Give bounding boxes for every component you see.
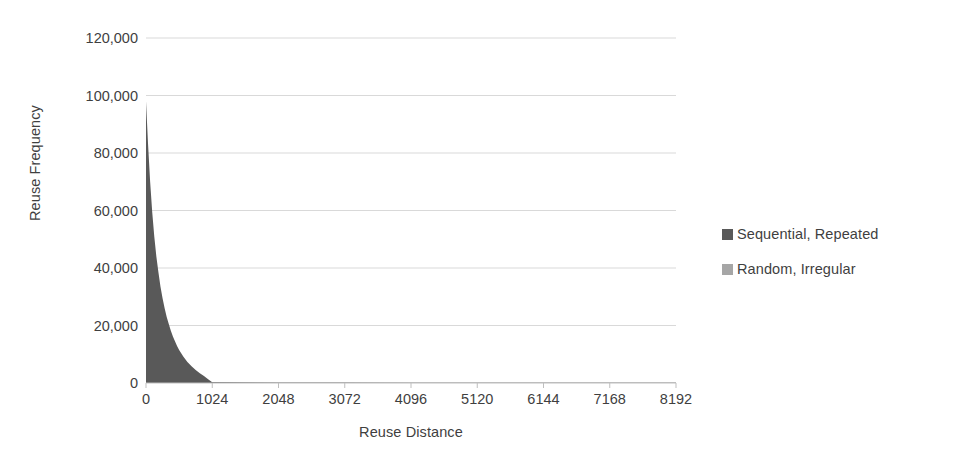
- y-tick-label: 120,000: [0, 31, 138, 46]
- x-tick-label: 4096: [395, 392, 427, 407]
- gridlines: [146, 38, 676, 326]
- x-tick-label: 7168: [594, 392, 626, 407]
- x-axis-tick-labels: 010242048307240965120614471688192: [0, 392, 964, 416]
- legend-swatch-icon: [722, 264, 733, 275]
- x-tick-label: 1024: [196, 392, 228, 407]
- x-tick-label: 5120: [461, 392, 493, 407]
- y-tick-label: 20,000: [0, 318, 138, 333]
- x-tick-label: 8192: [660, 392, 692, 407]
- x-tick-label: 6144: [527, 392, 559, 407]
- y-tick-label: 80,000: [0, 146, 138, 161]
- legend-item[interactable]: Sequential, Repeated: [722, 221, 952, 247]
- reuse-distance-area-chart: Reuse Frequency 120,000100,00080,00060,0…: [0, 0, 964, 469]
- y-tick-label: 60,000: [0, 203, 138, 218]
- x-tick-label: 2048: [262, 392, 294, 407]
- series-areas: [146, 101, 676, 383]
- series-area: [146, 101, 676, 383]
- plot-area: [146, 38, 676, 383]
- x-axis-title: Reuse Distance: [146, 424, 676, 440]
- legend-label: Random, Irregular: [737, 261, 856, 277]
- y-tick-label: 100,000: [0, 88, 138, 103]
- legend-item[interactable]: Random, Irregular: [722, 256, 952, 282]
- y-tick-label: 40,000: [0, 261, 138, 276]
- chart-legend: Sequential, RepeatedRandom, Irregular: [722, 221, 952, 291]
- x-tick-label: 0: [142, 392, 150, 407]
- legend-swatch-icon: [722, 229, 733, 240]
- y-tick-label: 0: [0, 376, 138, 391]
- x-tick-label: 3072: [329, 392, 361, 407]
- legend-label: Sequential, Repeated: [737, 226, 878, 242]
- x-axis-ticks: [146, 383, 676, 388]
- plot-svg: [146, 38, 676, 383]
